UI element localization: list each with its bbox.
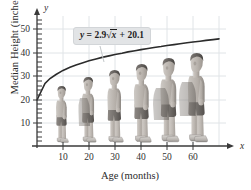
y-tick-label: 50: [21, 24, 31, 34]
y-axis-letter: y: [43, 3, 49, 13]
x-tick-label: 30: [110, 152, 120, 162]
equation-callout: y = 2.9√x + 20.1: [73, 27, 151, 45]
callout-leader-line: [100, 46, 104, 62]
y-tick-label: 10: [21, 118, 31, 128]
child-figure-30-months: [107, 70, 123, 142]
equation-coefficient: 2.9: [94, 30, 106, 40]
equation-plus: +: [120, 30, 125, 40]
x-axis-letter: x: [239, 141, 245, 151]
y-tick-label: 30: [21, 71, 31, 81]
chart-figure: Median Height (inches) Age (months): [0, 0, 251, 190]
y-tick-label: 20: [21, 95, 31, 105]
x-tick-labels: 10 20 30 40 50 60: [58, 152, 198, 162]
child-figure-10-months: [56, 86, 69, 143]
x-tick-label: 50: [162, 152, 172, 162]
x-tick-label: 10: [58, 152, 68, 162]
equation-equals: =: [87, 30, 92, 40]
x-tick-label: 20: [84, 152, 94, 162]
equation-constant: 20.1: [127, 30, 144, 40]
x-tick-label: 40: [136, 152, 146, 162]
x-tick-label: 60: [188, 152, 198, 162]
equation-radicand: x: [110, 29, 117, 40]
equation-y: y: [80, 30, 84, 40]
y-tick-label: 40: [21, 48, 31, 58]
y-tick-labels: 10 20 30 40 50: [21, 24, 31, 128]
